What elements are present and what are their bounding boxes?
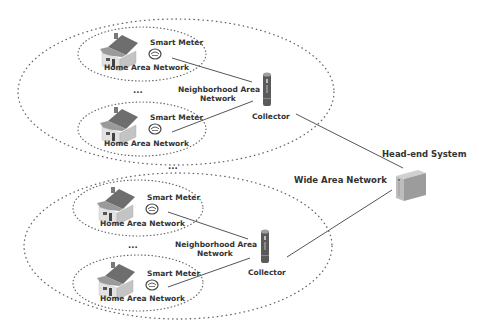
smart-meter-label: Smart Meter bbox=[150, 38, 203, 47]
han-label: Home Area Network bbox=[100, 219, 186, 228]
collector-top-label: Collector bbox=[252, 112, 290, 121]
collector-icon bbox=[261, 230, 269, 264]
nan-top-label-line1: Neighborhood Area bbox=[178, 85, 260, 94]
smart-meter-label: Smart Meter bbox=[150, 113, 203, 122]
head-end-server-icon bbox=[396, 170, 426, 201]
smart-meter-icon bbox=[149, 124, 161, 134]
collector-bottom-label: Collector bbox=[248, 268, 286, 277]
smart-meter-icon bbox=[146, 204, 158, 214]
smart-meter-icon bbox=[146, 280, 158, 290]
ellipsis-bottom-homes: ... bbox=[128, 240, 138, 250]
smart-meter-icon bbox=[149, 49, 161, 59]
nan-bottom-label-line1: Neighborhood Area bbox=[175, 240, 257, 249]
han-label: Home Area Network bbox=[100, 294, 186, 303]
collector-icon bbox=[263, 73, 271, 107]
link-collector2-headend bbox=[287, 190, 392, 257]
nan-top-label-line2: Network bbox=[200, 94, 237, 103]
ellipsis-top-homes: ... bbox=[133, 85, 143, 95]
smart-meter-label: Smart Meter bbox=[147, 269, 200, 278]
ellipsis-between-nans: ... bbox=[168, 161, 178, 171]
link-collector1-headend bbox=[296, 114, 403, 168]
network-diagram: Smart Meter Home Area Network ... Smart … bbox=[0, 0, 479, 336]
han-label: Home Area Network bbox=[104, 63, 190, 72]
smart-meter-label: Smart Meter bbox=[147, 193, 200, 202]
nan-bottom-label-line2: Network bbox=[197, 249, 234, 258]
han-1-boundary bbox=[78, 27, 206, 81]
wan-label: Wide Area Network bbox=[294, 175, 387, 185]
han-label: Home Area Network bbox=[104, 139, 190, 148]
head-end-system-label: Head-end System bbox=[382, 149, 467, 159]
